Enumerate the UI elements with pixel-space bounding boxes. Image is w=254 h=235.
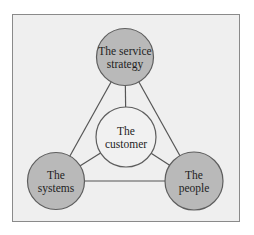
node-label-customer-line-1: The (117, 125, 135, 137)
node-label-people-line-2: people (179, 182, 210, 195)
node-service-strategy: The servicestrategy (97, 29, 154, 86)
node-label-systems-line-2: systems (38, 182, 75, 195)
node-label-customer-line-2: customer (105, 138, 147, 150)
node-customer: Thecustomer (96, 107, 156, 167)
node-label-people-line-1: The (185, 169, 203, 181)
service-triangle-diagram: The servicestrategyThecustomerThesystems… (0, 0, 254, 235)
node-systems: Thesystems (28, 153, 85, 210)
node-label-service-strategy-line-2: strategy (107, 58, 144, 71)
node-people: Thepeople (165, 152, 223, 210)
node-label-service-strategy-line-1: The service (98, 45, 151, 57)
node-label-systems-line-1: The (47, 169, 65, 181)
